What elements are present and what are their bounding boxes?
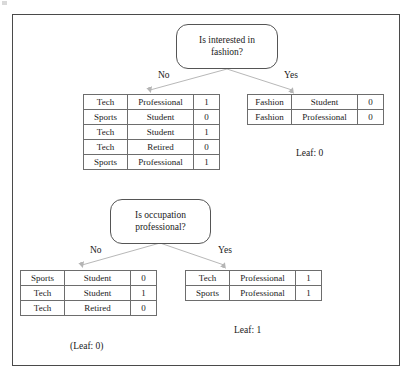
cell-occupation: Professional xyxy=(230,271,296,286)
table-second-yes-body: Tech Professional 1 Sports Professional … xyxy=(186,271,322,301)
cell-interest: Sports xyxy=(21,271,65,286)
cell-occupation: Student xyxy=(128,110,194,125)
table-second-no-body: Sports Student 0 Tech Student 1 Tech Ret… xyxy=(21,271,157,316)
table-root-no: Tech Professional 1 Sports Student 0 Tec… xyxy=(83,94,220,170)
table-row: Tech Retired 0 xyxy=(21,301,157,316)
cell-interest: Tech xyxy=(21,286,65,301)
cell-label: 0 xyxy=(194,140,220,155)
cell-interest: Tech xyxy=(186,271,230,286)
cell-occupation: Student xyxy=(65,286,131,301)
cell-label: 0 xyxy=(358,110,384,125)
cell-interest: Tech xyxy=(21,301,65,316)
cell-interest: Tech xyxy=(84,95,128,110)
cell-occupation: Professional xyxy=(230,286,296,301)
table-row: Tech Student 1 xyxy=(84,125,220,140)
cell-interest: Tech xyxy=(84,140,128,155)
table-row: Sports Student 0 xyxy=(21,271,157,286)
table-row: Fashion Professional 0 xyxy=(248,110,384,125)
table-row: Tech Student 1 xyxy=(21,286,157,301)
cell-occupation: Professional xyxy=(292,110,358,125)
decision-node-root-label: Is interested in fashion? xyxy=(195,35,259,59)
leaf-label-root-yes: Leaf: 0 xyxy=(296,148,323,158)
cell-occupation: Student xyxy=(65,271,131,286)
decision-node-root[interactable]: Is interested in fashion? xyxy=(176,24,278,69)
cell-occupation: Professional xyxy=(128,155,194,170)
scan-artifact xyxy=(2,1,7,5)
cell-interest: Sports xyxy=(84,110,128,125)
decision-node-occupation[interactable]: Is occupation professional? xyxy=(110,199,211,244)
table-row: Tech Professional 1 xyxy=(84,95,220,110)
table-root-yes: Fashion Student 0 Fashion Professional 0 xyxy=(247,94,384,125)
cell-interest: Fashion xyxy=(248,95,292,110)
cell-interest: Tech xyxy=(84,125,128,140)
cell-occupation: Student xyxy=(292,95,358,110)
cell-label: 1 xyxy=(296,286,322,301)
cell-interest: Sports xyxy=(84,155,128,170)
table-root-yes-body: Fashion Student 0 Fashion Professional 0 xyxy=(248,95,384,125)
table-row: Sports Student 0 xyxy=(84,110,220,125)
cell-label: 0 xyxy=(358,95,384,110)
table-row: Sports Professional 1 xyxy=(84,155,220,170)
branch-label-second-yes: Yes xyxy=(218,245,232,255)
table-row: Tech Retired 0 xyxy=(84,140,220,155)
cell-occupation: Retired xyxy=(128,140,194,155)
leaf-label-second-yes: Leaf: 1 xyxy=(234,325,261,335)
cell-label: 1 xyxy=(131,286,157,301)
decision-node-occupation-label: Is occupation professional? xyxy=(131,210,190,234)
branch-label-root-yes: Yes xyxy=(284,70,298,80)
table-second-yes: Tech Professional 1 Sports Professional … xyxy=(185,270,322,301)
cell-label: 1 xyxy=(194,155,220,170)
cell-interest: Sports xyxy=(186,286,230,301)
cell-label: 0 xyxy=(131,271,157,286)
cell-label: 1 xyxy=(194,125,220,140)
cell-occupation: Student xyxy=(128,125,194,140)
cell-interest: Fashion xyxy=(248,110,292,125)
cell-occupation: Professional xyxy=(128,95,194,110)
cell-occupation: Retired xyxy=(65,301,131,316)
branch-label-second-no: No xyxy=(90,245,102,255)
decision-tree-figure: Is interested in fashion? No Yes Tech Pr… xyxy=(0,0,413,382)
table-row: Tech Professional 1 xyxy=(186,271,322,286)
cell-label: 0 xyxy=(131,301,157,316)
leaf-label-second-no: (Leaf: 0) xyxy=(70,341,104,351)
table-row: Sports Professional 1 xyxy=(186,286,322,301)
table-root-no-body: Tech Professional 1 Sports Student 0 Tec… xyxy=(84,95,220,170)
branch-label-root-no: No xyxy=(158,70,170,80)
cell-label: 1 xyxy=(194,95,220,110)
cell-label: 1 xyxy=(296,271,322,286)
cell-label: 0 xyxy=(194,110,220,125)
table-second-no: Sports Student 0 Tech Student 1 Tech Ret… xyxy=(20,270,157,316)
table-row: Fashion Student 0 xyxy=(248,95,384,110)
